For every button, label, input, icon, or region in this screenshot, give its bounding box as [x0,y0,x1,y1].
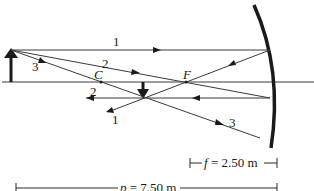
ray-1-arrow-icon [153,47,161,53]
ray-3-label: 3 [32,59,39,74]
ray-3-reflected-label: 3 [229,115,236,130]
ray-3-arrow-icon [215,119,224,125]
ray-diagram: 1 2 3 C F 2 1 3 f = 2.50 m p = 7.50 m [0,0,314,191]
ray-2-label: 2 [102,56,109,71]
concave-mirror [254,5,275,148]
object-distance-label: p = 7.50 m [119,180,176,191]
ray-3 [11,50,260,138]
ray-1-label: 1 [113,34,120,49]
focal-length-dimension: f = 2.50 m [190,155,277,170]
center-of-curvature-label: C [94,67,103,82]
ray-3-back-arrow-icon [38,57,46,63]
ray-1-reflect-arrow-icon [228,60,236,66]
ray-2-reflect-arrow-icon [192,95,200,101]
object-distance-dimension: p = 7.50 m [16,180,277,191]
focal-length-label: f = 2.50 m [204,155,258,170]
ray-1-reflected-label: 1 [112,112,119,127]
object-arrow [4,48,18,82]
ray-2-reflected-label: 2 [90,84,97,99]
focal-point-label: F [182,67,192,82]
